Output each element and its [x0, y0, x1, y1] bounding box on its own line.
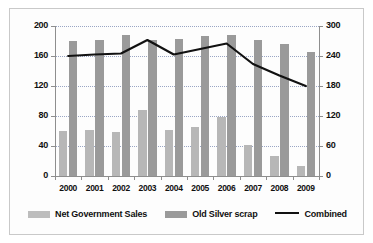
x-axis-tick-label: 2009 — [293, 183, 319, 193]
x-axis-tick — [187, 176, 188, 180]
y-axis-right-tick-label: 60 — [326, 140, 352, 150]
legend-item-old-silver-scrap: Old Silver scrap — [165, 209, 257, 219]
x-axis-tick — [319, 176, 320, 180]
y-axis-right-tick-label: 120 — [326, 110, 352, 120]
x-axis-tick — [266, 176, 267, 180]
x-axis-tick — [240, 176, 241, 180]
y-axis-right-tick — [319, 86, 323, 87]
x-axis-tick — [213, 176, 214, 180]
y-axis-right-tick-label: 0 — [326, 170, 352, 180]
y-axis-right-tick — [319, 146, 323, 147]
y-axis-right-tick-label: 180 — [326, 80, 352, 90]
y-axis-left-tick-label: 40 — [22, 140, 48, 150]
legend-swatch-icon-old-silver-scrap — [165, 211, 187, 218]
legend-item-combined: Combined — [275, 209, 346, 219]
y-axis-right-tick — [319, 56, 323, 57]
combined-line-series — [55, 26, 319, 176]
x-axis-tick-label: 2002 — [108, 183, 134, 193]
x-axis-tick-label: 2000 — [55, 183, 81, 193]
legend-line-icon-combined — [275, 212, 299, 214]
y-axis-right-tick — [319, 116, 323, 117]
legend-label-combined: Combined — [304, 209, 346, 219]
x-axis-tick — [81, 176, 82, 180]
legend-label-net-government-sales: Net Government Sales — [55, 209, 147, 219]
y-axis-right-tick — [319, 26, 323, 27]
x-axis-tick — [108, 176, 109, 180]
x-axis-tick-label: 2003 — [134, 183, 160, 193]
x-axis-tick-label: 2004 — [161, 183, 187, 193]
combined-polyline — [68, 40, 306, 86]
chart-legend: Net Government Sales Old Silver scrap Co… — [10, 205, 365, 223]
legend-item-net-government-sales: Net Government Sales — [28, 209, 147, 219]
y-axis-left-tick-label: 0 — [22, 170, 48, 180]
chart-frame: 20016012080400 300240180120600 200020012… — [9, 8, 364, 235]
x-axis-tick — [134, 176, 135, 180]
y-axis-right-tick-label: 300 — [326, 20, 352, 30]
x-axis-tick — [293, 176, 294, 180]
y-axis-left-tick-label: 120 — [22, 80, 48, 90]
legend-label-old-silver-scrap: Old Silver scrap — [192, 209, 257, 219]
x-axis-tick-label: 2007 — [240, 183, 266, 193]
y-axis-right — [319, 26, 320, 177]
x-axis-tick-label: 2005 — [187, 183, 213, 193]
y-axis-left-tick-label: 160 — [22, 50, 48, 60]
y-axis-left-tick-label: 200 — [22, 20, 48, 30]
x-axis-tick — [55, 176, 56, 180]
y-axis-right-tick-label: 240 — [326, 50, 352, 60]
x-axis-tick-label: 2008 — [266, 183, 292, 193]
x-axis-tick-label: 2006 — [214, 183, 240, 193]
x-axis-tick-label: 2001 — [82, 183, 108, 193]
x-axis-tick — [161, 176, 162, 180]
legend-swatch-icon-net-government-sales — [28, 211, 50, 218]
y-axis-left-tick-label: 80 — [22, 110, 48, 120]
